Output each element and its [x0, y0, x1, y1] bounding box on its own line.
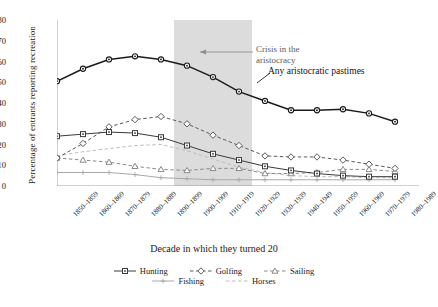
- data-point-circle: [340, 107, 345, 112]
- x-tick-label: 1970–1979: [383, 190, 412, 219]
- data-point-diamond: [158, 113, 164, 119]
- x-tick-label: 1940–1949: [305, 190, 334, 219]
- legend-swatch-golfing: [190, 266, 212, 276]
- annotation-any-aristocratic-pastimes: Any aristocratic pastimes: [268, 66, 365, 76]
- data-point-square: [393, 174, 398, 179]
- y-tick-label: 30: [0, 119, 6, 129]
- data-point-square: [57, 134, 60, 139]
- data-point-diamond: [197, 268, 203, 274]
- data-point-circle: [132, 54, 137, 59]
- legend-label: Horses: [252, 276, 276, 286]
- legend-label: Hunting: [140, 266, 168, 276]
- x-axis-title: Decade in which they turned 20: [0, 243, 428, 254]
- data-point-circle: [106, 57, 111, 62]
- x-tick-label: 1900–1909: [201, 190, 230, 219]
- plot-area: [57, 20, 419, 186]
- x-tick-label: 1870–1879: [123, 190, 152, 219]
- data-point-square: [315, 171, 320, 176]
- data-point-circle: [80, 66, 85, 71]
- data-point-circle: [210, 74, 215, 79]
- data-point-plus: [159, 175, 164, 180]
- x-tick-label: 1860–1869: [97, 190, 126, 219]
- data-point-circle: [314, 108, 319, 113]
- x-tick-label: 1850–1859: [71, 190, 100, 219]
- data-point-square: [185, 143, 190, 148]
- data-point-diamond: [262, 153, 268, 159]
- data-point-plus: [315, 177, 320, 182]
- data-point-circle: [392, 119, 397, 124]
- data-point-plus: [133, 172, 138, 177]
- legend-item-golfing[interactable]: Golfing: [190, 266, 242, 276]
- data-point-diamond: [288, 154, 294, 160]
- y-axis-title: Percentage of entrants reporting recreat…: [27, 15, 37, 195]
- data-point-triangle: [132, 163, 138, 168]
- data-point-circle: [236, 89, 241, 94]
- y-tick-label: 40: [0, 98, 6, 108]
- data-point-plus: [57, 170, 59, 175]
- data-point-square: [211, 151, 216, 156]
- x-tick-label: 1920–1929: [253, 190, 282, 219]
- x-tick-label: 1890–1899: [175, 190, 204, 219]
- x-tick-label: 1960–1969: [357, 190, 386, 219]
- legend-row-2: FishingHorses: [0, 276, 428, 286]
- legend-label: Golfing: [216, 266, 242, 276]
- y-tick-label: 20: [0, 140, 6, 150]
- data-point-diamond: [80, 140, 86, 146]
- y-tick-label: 60: [0, 57, 6, 67]
- x-tick-label: 1980–1989: [409, 190, 438, 219]
- data-point-square: [107, 130, 112, 135]
- data-point-plus: [289, 177, 294, 182]
- series-canvas: [57, 20, 419, 186]
- data-point-square: [122, 269, 127, 274]
- chart-legend: HuntingGolfingSailing FishingHorses: [0, 266, 428, 286]
- legend-row-1: HuntingGolfingSailing: [0, 266, 428, 276]
- legend-swatch-horses: [226, 276, 248, 286]
- data-point-square: [159, 135, 164, 140]
- data-point-plus: [161, 279, 166, 284]
- data-point-diamond: [314, 154, 320, 160]
- y-tick-label: 0: [0, 181, 6, 191]
- data-point-diamond: [340, 157, 346, 163]
- data-point-diamond: [392, 165, 398, 171]
- data-point-square: [81, 132, 86, 137]
- data-point-circle: [184, 63, 189, 68]
- annotation-crisis: Crisis in the aristocracy: [256, 44, 300, 66]
- y-tick-label: 50: [0, 77, 6, 87]
- data-point-square: [367, 174, 372, 179]
- data-point-circle: [57, 79, 60, 84]
- annotation-crisis-line1: Crisis in the: [256, 44, 300, 55]
- data-point-square: [133, 131, 138, 136]
- legend-label: Fishing: [178, 276, 204, 286]
- x-tick-label: 1880–1889: [149, 190, 178, 219]
- legend-item-sailing[interactable]: Sailing: [264, 266, 314, 276]
- x-tick-label: 1930–1939: [279, 190, 308, 219]
- data-point-plus: [81, 170, 86, 175]
- data-point-circle: [262, 98, 267, 103]
- data-point-diamond: [366, 161, 372, 167]
- annotation-crisis-line2: aristocracy: [256, 55, 300, 66]
- data-point-plus: [107, 170, 112, 175]
- y-tick-label: 80: [0, 15, 6, 25]
- data-point-plus: [263, 177, 268, 182]
- data-point-triangle: [80, 157, 86, 162]
- y-tick-label: 10: [0, 160, 6, 170]
- data-point-square: [237, 158, 242, 163]
- data-point-circle: [288, 108, 293, 113]
- legend-item-horses[interactable]: Horses: [226, 276, 276, 286]
- legend-swatch-hunting: [114, 266, 136, 276]
- x-tick-label: 1910–1919: [227, 190, 256, 219]
- y-tick-label: 70: [0, 36, 6, 46]
- data-point-square: [289, 168, 294, 173]
- data-point-circle: [366, 111, 371, 116]
- legend-swatch-sailing: [264, 266, 286, 276]
- data-point-diamond: [132, 116, 138, 122]
- legend-label: Sailing: [290, 266, 314, 276]
- legend-item-fishing[interactable]: Fishing: [152, 276, 204, 286]
- legend-swatch-fishing: [152, 276, 174, 286]
- x-tick-label: 1950–1959: [331, 190, 360, 219]
- legend-item-hunting[interactable]: Hunting: [114, 266, 168, 276]
- data-point-square: [263, 164, 268, 169]
- data-point-circle: [158, 57, 163, 62]
- data-point-square: [341, 173, 346, 178]
